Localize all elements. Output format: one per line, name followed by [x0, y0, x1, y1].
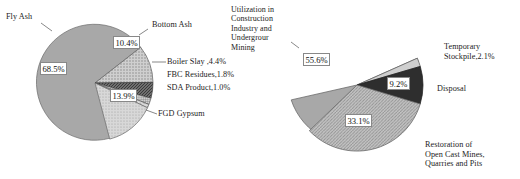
- figure-canvas: Fly Ash Bottom Ash Boiler Slay ,4.4% FBC…: [0, 0, 520, 179]
- value-bottom-ash: 10.4%: [113, 36, 140, 49]
- value-disposal: 9.2%: [387, 77, 410, 90]
- leader-line-bottom-ash: [139, 29, 148, 35]
- leader-line-utilization: [291, 42, 299, 48]
- label-boiler-slag: Boiler Slay ,4.4%: [167, 57, 226, 67]
- label-fly-ash: Fly Ash: [6, 12, 32, 22]
- leader-line-fly-ash: [41, 23, 52, 31]
- label-bottom-ash: Bottom Ash: [152, 20, 192, 30]
- leader-line-fgd-gypsum: [146, 110, 157, 114]
- label-fbc-residues: FBC Residues,1.8%: [167, 70, 234, 80]
- value-fly-ash: 68.5%: [40, 62, 67, 75]
- value-restoration: 33.1%: [345, 114, 372, 127]
- label-utilization: Utilization in Construction Industry and…: [231, 5, 291, 52]
- label-temporary-stockpile: Temporary Stockpile,2.1%: [444, 42, 520, 61]
- label-disposal: Disposal: [437, 84, 466, 94]
- value-utilization: 55.6%: [303, 53, 330, 66]
- label-restoration: Restoration of Open Cast Mines, Quarries…: [425, 140, 520, 169]
- left-pie-group: [36, 23, 166, 140]
- label-fgd-gypsum: FGD Gypsum: [158, 109, 205, 119]
- label-sda-product: SDA Product,1.0%: [167, 83, 230, 93]
- value-fgd-gypsum: 13.9%: [110, 89, 137, 102]
